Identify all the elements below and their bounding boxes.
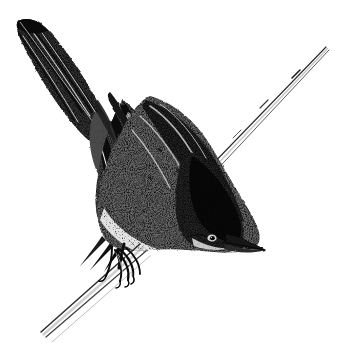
bird-illustration-canvas: Monochrome stipple/engraving illustratio… — [0, 0, 345, 352]
bird-illustration-svg — [0, 0, 345, 352]
